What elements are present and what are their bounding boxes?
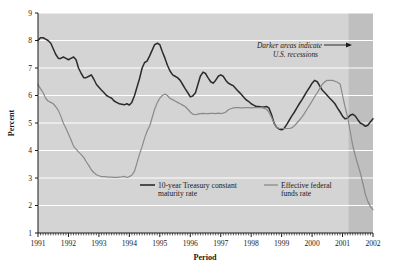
x-axis-title: Period <box>193 253 217 262</box>
x-tick-label-1996: 1996 <box>183 239 198 248</box>
x-tick-label-1997: 1997 <box>213 239 228 248</box>
x-tick-label-2002: 2002 <box>365 239 380 248</box>
y-tick-label-6: 6 <box>28 91 32 100</box>
y-tick-label-5: 5 <box>28 119 32 128</box>
y-tick-label-4: 4 <box>28 146 32 155</box>
x-tick-label-2000: 2000 <box>304 239 319 248</box>
x-tick-label-1998: 1998 <box>244 239 259 248</box>
plot-background-group <box>38 13 373 233</box>
x-tick-label-1999: 1999 <box>274 239 289 248</box>
y-tick-label-3: 3 <box>28 174 32 183</box>
y-axis-ticks-group: 987654321 <box>28 9 38 238</box>
y-axis-title: Percent <box>7 109 16 136</box>
x-tick-label-1992: 1992 <box>61 239 76 248</box>
x-tick-label-1995: 1995 <box>152 239 167 248</box>
x-tick-label-1991: 1991 <box>30 239 45 248</box>
y-tick-label-2: 2 <box>28 201 32 210</box>
interest-rate-line-chart: 987654321 199119921993199419951996199719… <box>0 0 393 268</box>
recession-annotation-line-2: U.S. recessions <box>273 50 318 59</box>
y-tick-label-9: 9 <box>28 9 32 18</box>
legend-label-fedfunds-line-2: funds rate <box>281 189 312 198</box>
y-tick-label-8: 8 <box>28 36 32 45</box>
y-tick-label-1: 1 <box>28 229 32 238</box>
x-tick-label-1994: 1994 <box>122 239 137 248</box>
x-tick-label-2001: 2001 <box>335 239 350 248</box>
recession-annotation-line-1: Darker areas indicate <box>256 41 323 50</box>
y-tick-label-7: 7 <box>28 64 32 73</box>
x-tick-label-1993: 1993 <box>91 239 106 248</box>
legend-label-treasury-line-2: maturity rate <box>158 189 198 198</box>
x-axis-ticks-group: 1991199219931994199519961997199819992000… <box>30 233 380 248</box>
chart-figure: 987654321 199119921993199419951996199719… <box>0 0 393 268</box>
